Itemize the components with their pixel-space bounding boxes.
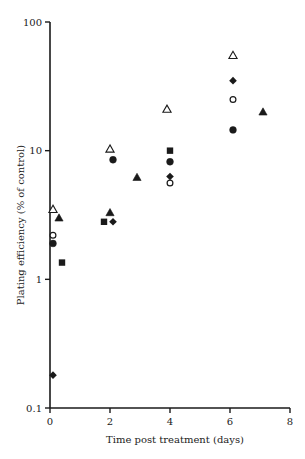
point-filled-circle	[50, 240, 57, 247]
point-filled-triangle	[55, 214, 63, 221]
point-filled-square	[59, 259, 65, 265]
x-ticks: 02468	[47, 408, 293, 427]
x-tick-label: 4	[167, 416, 173, 427]
point-open-triangle	[106, 145, 114, 152]
point-filled-triangle	[133, 173, 141, 180]
y-tick-label: 0.1	[26, 403, 42, 414]
x-tick-label: 2	[107, 416, 113, 427]
point-filled-triangle	[106, 209, 114, 216]
point-open-circle	[50, 232, 56, 238]
y-tick-label: 10	[29, 145, 42, 156]
point-filled-circle	[230, 127, 237, 134]
point-filled-circle	[167, 158, 174, 165]
x-tick-label: 8	[287, 416, 293, 427]
point-open-triangle	[163, 105, 171, 112]
point-open-circle	[230, 97, 236, 103]
point-open-triangle	[229, 51, 237, 58]
axes	[50, 22, 290, 408]
point-filled-circle	[110, 156, 117, 163]
y-ticks: 0.1110100	[23, 17, 50, 414]
point-filled-diamond	[166, 173, 174, 181]
y-tick-label: 100	[23, 17, 42, 28]
point-filled-square	[167, 147, 173, 153]
y-axis-label: Plating efficiency (% of control)	[15, 145, 26, 305]
scatter-chart: 0.1110100 02468 Time post treatment (day…	[0, 0, 305, 459]
x-axis-label: Time post treatment (days)	[106, 434, 244, 445]
point-filled-triangle	[259, 108, 267, 115]
x-tick-label: 6	[227, 416, 233, 427]
point-open-circle	[167, 180, 173, 186]
point-filled-diamond	[229, 77, 237, 85]
point-filled-square	[101, 219, 107, 225]
y-tick-label: 1	[36, 274, 42, 285]
data-points	[49, 51, 267, 379]
point-filled-diamond	[109, 218, 117, 226]
x-tick-label: 0	[47, 416, 53, 427]
